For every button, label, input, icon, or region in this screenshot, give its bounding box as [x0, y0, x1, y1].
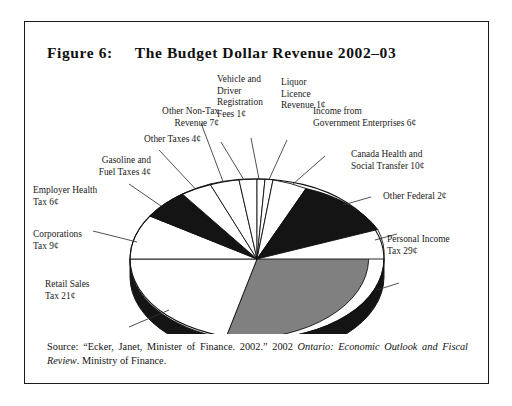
figure-title-text: The Budget Dollar Revenue 2002–03 — [135, 44, 397, 61]
source-prefix: Source: “Ecker, Janet, Minister of Finan… — [47, 341, 298, 352]
leader-gasoline-fuel — [159, 150, 195, 189]
figure-number: Figure 6: — [47, 44, 113, 61]
leader-income-gov-ent — [293, 156, 325, 184]
callout-other-taxes: Other Taxes 4¢ — [111, 134, 201, 146]
leader-other-taxes — [201, 123, 223, 182]
leader-canada-health — [343, 197, 371, 205]
callout-gasoline-and-fuel-taxes: Gasoline and Fuel Taxes 4¢ — [63, 155, 151, 178]
callout-corporations-tax: Corporations Tax 9¢ — [33, 229, 123, 252]
callout-other-non-tax-revenue: Other Non-Tax Revenue 7¢ — [129, 106, 219, 129]
leader-liquor-licence — [269, 140, 287, 180]
callout-other-federal: Other Federal 2¢ — [383, 191, 489, 203]
callout-vehicle-driver-registration-fees: Vehicle and Driver Registration Fees 1¢ — [217, 74, 277, 120]
figure-frame: Figure 6:The Budget Dollar Revenue 2002–… — [24, 21, 489, 384]
leader-employer-health — [129, 184, 161, 206]
callout-income-from-government-enterprises: Income from Government Enterprises 6¢ — [313, 106, 463, 129]
leader-other-non-tax — [221, 142, 244, 180]
leader-vehicle-driver — [251, 138, 259, 179]
figure-title: Figure 6:The Budget Dollar Revenue 2002–… — [47, 44, 396, 62]
source-note: Source: “Ecker, Janet, Minister of Finan… — [47, 340, 468, 367]
callout-personal-income-tax: Personal Income Tax 29¢ — [387, 234, 483, 257]
callout-canada-health-and-social-transfer: Canada Health and Social Transfer 10¢ — [351, 149, 477, 172]
callout-employer-health-tax: Employer Health Tax 6¢ — [33, 185, 127, 208]
source-suffix: . Ministry of Finance. — [77, 355, 167, 366]
callout-retail-sales-tax: Retail Sales Tax 21¢ — [45, 279, 129, 302]
